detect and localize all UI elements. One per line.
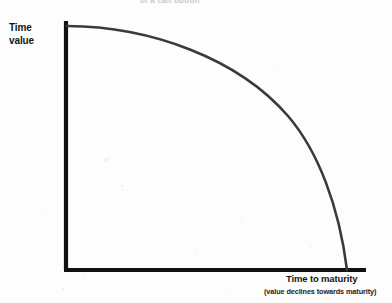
time-value-decay-curve <box>67 26 347 270</box>
y-axis-label-line1: Time <box>9 21 34 34</box>
y-axis-label-line2: value <box>9 34 34 47</box>
y-axis-label: Time value <box>9 21 34 47</box>
time-value-decay-figure: of a call option <box>0 0 392 303</box>
x-axis-sublabel: (value declines towards maturity) <box>264 287 376 296</box>
time-value-plot <box>0 0 392 303</box>
x-axis-label: Time to maturity <box>286 273 357 284</box>
